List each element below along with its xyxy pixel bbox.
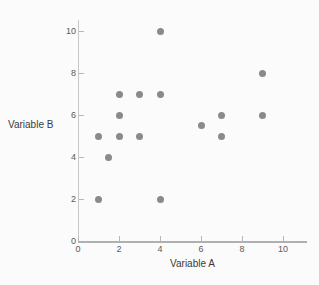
- y-tick-mark: [79, 115, 84, 116]
- y-tick-mark: [79, 157, 84, 158]
- x-tick-mark: [201, 236, 202, 241]
- data-point: [105, 154, 112, 161]
- plot-area: 02468100246810: [0, 0, 319, 285]
- data-point: [95, 133, 102, 140]
- data-point: [136, 91, 143, 98]
- y-tick-mark: [79, 31, 84, 32]
- x-tick-mark: [160, 236, 161, 241]
- data-point: [218, 112, 225, 119]
- y-tick-mark: [79, 199, 84, 200]
- y-tick-label: 4: [62, 152, 76, 162]
- x-tick-mark: [119, 236, 120, 241]
- y-tick-label: 2: [62, 194, 76, 204]
- y-axis-line: [78, 20, 79, 242]
- data-point: [157, 91, 164, 98]
- x-tick-label: 6: [198, 244, 203, 254]
- y-axis-label: Variable B: [8, 119, 53, 130]
- y-tick-label: 8: [62, 68, 76, 78]
- x-axis-line: [78, 241, 307, 243]
- data-point: [198, 122, 205, 129]
- x-tick-label: 2: [116, 244, 121, 254]
- data-point: [136, 133, 143, 140]
- data-point: [116, 133, 123, 140]
- scatter-chart-figure: 02468100246810 Variable A Variable B: [0, 0, 319, 285]
- data-point: [116, 112, 123, 119]
- x-tick-mark: [283, 236, 284, 241]
- data-point: [95, 196, 102, 203]
- data-point: [218, 133, 225, 140]
- x-tick-label: 4: [157, 244, 162, 254]
- x-tick-mark: [78, 236, 79, 241]
- data-point: [157, 28, 164, 35]
- y-tick-label: 10: [62, 26, 76, 36]
- y-tick-label: 0: [62, 236, 76, 246]
- data-point: [259, 70, 266, 77]
- x-axis-label: Variable A: [78, 258, 307, 269]
- y-tick-mark: [79, 73, 84, 74]
- data-point: [259, 112, 266, 119]
- data-point: [116, 91, 123, 98]
- data-point: [157, 196, 164, 203]
- x-tick-label: 0: [75, 244, 80, 254]
- x-tick-label: 10: [278, 244, 288, 254]
- x-tick-mark: [242, 236, 243, 241]
- x-tick-label: 8: [239, 244, 244, 254]
- y-tick-label: 6: [62, 110, 76, 120]
